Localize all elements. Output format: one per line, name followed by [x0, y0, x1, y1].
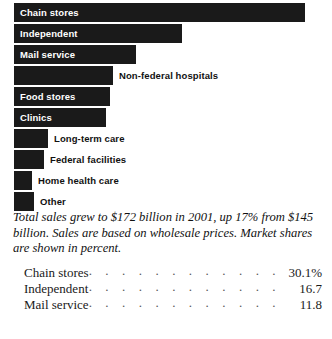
bar-label: Home health care — [38, 171, 119, 190]
bar-label: Other — [40, 192, 66, 211]
bar-label: Chain stores — [20, 3, 79, 22]
bar — [14, 129, 48, 148]
bar-label: Non-federal hospitals — [119, 66, 218, 85]
table-row: Chain stores. . . . . . . . . . . . . . … — [24, 265, 322, 281]
bar-label: Independent — [20, 24, 78, 43]
bar-label: Food stores — [20, 87, 75, 106]
table-row-leader-dots: . . . . . . . . . . . . . . . . . . . . … — [89, 265, 289, 281]
bar-label: Federal facilities — [50, 150, 126, 169]
table-row-value: 11.8 — [288, 297, 322, 313]
chart-plot-area: Chain storesIndependentMail serviceNon-f… — [0, 0, 332, 212]
table-row-value: 16.7 — [288, 281, 322, 297]
table-row-value: 30.1% — [288, 265, 322, 281]
bar — [14, 192, 34, 211]
bar — [14, 150, 44, 169]
table-row-leader-dots: . . . . . . . . . . . . . . . . . . . . … — [89, 281, 289, 297]
bar-chart-figure: Chain storesIndependentMail serviceNon-f… — [0, 0, 332, 339]
leader-dots-text: . . . . . . . . . . . . . . . . . . . . … — [89, 281, 289, 295]
table-row: Mail service. . . . . . . . . . . . . . … — [24, 297, 322, 313]
table-row-name: Chain stores — [24, 265, 89, 281]
table-row-name: Independent — [24, 281, 89, 297]
bar — [14, 171, 32, 190]
market-share-table-body: Chain stores. . . . . . . . . . . . . . … — [24, 265, 322, 313]
table-row: Independent. . . . . . . . . . . . . . .… — [24, 281, 322, 297]
table-row-leader-dots: . . . . . . . . . . . . . . . . . . . . … — [89, 297, 289, 313]
bar — [14, 66, 113, 85]
market-share-table: Chain stores. . . . . . . . . . . . . . … — [24, 265, 322, 313]
leader-dots-text: . . . . . . . . . . . . . . . . . . . . … — [89, 265, 289, 279]
leader-dots-text: . . . . . . . . . . . . . . . . . . . . … — [89, 297, 289, 311]
bar-label: Clinics — [20, 108, 52, 127]
chart-caption: Total sales grew to $172 billion in 2001… — [13, 210, 319, 257]
table-row-name: Mail service — [24, 297, 89, 313]
bar-label: Mail service — [20, 45, 75, 64]
bar-label: Long-term care — [54, 129, 125, 148]
